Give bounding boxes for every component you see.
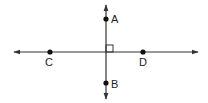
point-label: B xyxy=(111,78,118,90)
point-label: A xyxy=(111,13,119,25)
point-dot xyxy=(140,49,145,54)
point-dot xyxy=(47,49,52,54)
point-label: D xyxy=(139,56,147,68)
perpendicular-lines-diagram: ABCD xyxy=(0,0,208,103)
point-dot xyxy=(103,16,108,21)
right-angle-marker xyxy=(106,45,113,52)
point-label: C xyxy=(45,56,53,68)
point-dot xyxy=(103,80,108,85)
